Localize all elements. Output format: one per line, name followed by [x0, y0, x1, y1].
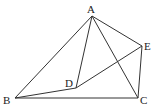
segment-AE	[92, 16, 142, 46]
label-B: B	[3, 94, 10, 106]
segment-EC	[138, 46, 142, 98]
geometry-diagram: A E D B C	[0, 0, 155, 107]
label-A: A	[87, 3, 95, 15]
segment-AD	[76, 16, 92, 88]
label-E: E	[144, 40, 151, 52]
label-C: C	[140, 94, 147, 106]
segment-AC	[92, 16, 138, 98]
segment-BD	[15, 88, 76, 98]
label-D: D	[65, 77, 73, 89]
segment-DE	[76, 46, 142, 88]
